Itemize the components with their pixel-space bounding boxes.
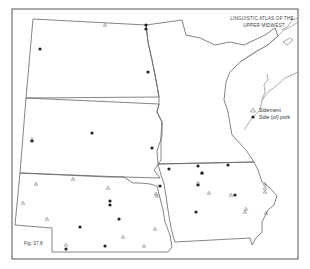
map-canvas: LINGUISTIC ATLAS OF THE UPPER MIDWEST Si… [0,0,310,269]
side-pork-marker [200,171,203,174]
sidement-markers [21,23,267,247]
side-pork-marker [194,210,197,213]
side-pork-marker [90,131,93,134]
side-pork-marker [196,164,199,167]
legend-dot-icon [251,115,254,118]
sidement-marker [106,186,109,189]
state-minnesota [146,20,278,164]
legend-label-sidement: Sidement [259,107,281,113]
side-pork-marker [108,199,111,202]
sidement-marker [153,227,156,230]
side-pork-marker [64,247,67,250]
sidement-marker [243,210,246,213]
side-pork-marker [146,70,149,73]
sidement-marker [263,186,266,189]
sidement-marker [121,235,124,238]
side-pork-marker [233,193,236,196]
sidement-marker [263,190,266,193]
state-north-dakota [26,19,159,98]
sidement-marker [244,207,247,210]
sidement-marker [207,191,210,194]
legend-triangle-icon [251,108,256,112]
side-pork-marker [117,217,120,220]
state-iowa [158,162,277,245]
map-frame [12,9,298,259]
side-pork-marker [38,47,41,50]
side-pork-marker [150,146,153,149]
legend-label-side-pork: Side (of) pork [259,114,291,120]
side-pork-marker [144,27,147,30]
side-pork-marker [167,167,170,170]
figure-label: Fig. 37.8 [24,241,43,246]
sidement-marker [21,201,24,204]
atlas-title-line2: UPPER MIDWEST [243,23,284,28]
state-south-dakota [20,98,162,178]
side-pork-marker [30,139,33,142]
sidement-marker [45,217,48,220]
sidement-marker [64,243,67,246]
side-pork-marker [196,183,199,186]
sidement-marker [71,177,74,180]
sidement-marker [34,182,37,185]
side-pork-marker [158,184,161,187]
side-pork-marker [144,23,147,26]
side-pork-marker [103,244,106,247]
side-pork-markers [30,23,236,250]
lake-superior-shore [230,22,298,72]
side-pork-marker [108,203,111,206]
island [283,38,293,45]
atlas-title-line1: LINGUISTIC ATLAS OF THE [230,16,294,21]
sidement-marker [155,194,158,197]
side-pork-marker [226,163,229,166]
map-figure: LINGUISTIC ATLAS OF THE UPPER MIDWEST Si… [0,0,310,269]
sidement-marker [103,23,106,26]
side-pork-marker [78,225,81,228]
lake-michigan-shore [244,72,298,130]
sidement-marker [142,244,145,247]
sidement-marker [229,193,232,196]
